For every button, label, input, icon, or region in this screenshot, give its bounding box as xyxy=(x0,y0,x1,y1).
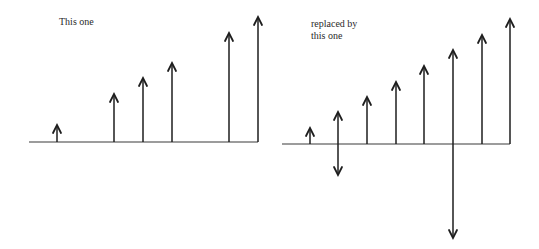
up-arrow-icon xyxy=(392,82,400,144)
up-arrow-icon xyxy=(420,66,428,144)
up-arrow-icon xyxy=(168,63,176,142)
up-arrow-icon xyxy=(478,35,486,144)
left-panel xyxy=(29,17,262,142)
up-arrow-icon xyxy=(225,33,233,142)
up-arrow-icon xyxy=(139,78,147,142)
impulse-diagram xyxy=(0,0,539,249)
up-arrow-icon xyxy=(53,125,61,142)
up-arrow-icon xyxy=(363,97,371,144)
up-arrow-icon xyxy=(254,17,262,142)
up-arrow-icon xyxy=(110,94,118,142)
up-arrow-icon xyxy=(506,19,514,144)
up-arrow-icon xyxy=(306,128,314,144)
right-panel xyxy=(282,19,514,238)
